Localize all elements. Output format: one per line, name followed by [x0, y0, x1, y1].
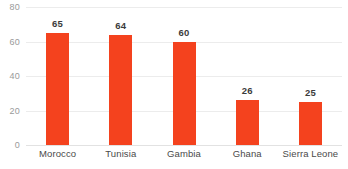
xlabel-morocco: Morocco — [26, 148, 89, 159]
bar-morocco — [46, 33, 69, 145]
ytick-label-20: 20 — [0, 106, 20, 116]
ytick-label-0: 0 — [0, 140, 20, 150]
bar-series: 65 64 60 26 25 — [26, 7, 342, 145]
bar-group-tunisia: 64 — [89, 7, 152, 145]
bar-group-sierra-leone: 25 — [279, 7, 342, 145]
xlabel-gambia: Gambia — [152, 148, 215, 159]
gridline-0-baseline — [26, 145, 342, 146]
xlabel-sierra-leone: Sierra Leone — [279, 148, 342, 159]
ytick-label-40: 40 — [0, 71, 20, 81]
bar-value-ghana: 26 — [242, 85, 253, 96]
x-axis-labels: Morocco Tunisia Gambia Ghana Sierra Leon… — [26, 148, 342, 166]
bar-value-morocco: 65 — [52, 18, 63, 29]
bar-tunisia — [109, 35, 132, 145]
bar-group-gambia: 60 — [152, 7, 215, 145]
ytick-label-80: 80 — [0, 2, 20, 12]
bar-gambia — [173, 42, 196, 146]
bar-value-tunisia: 64 — [115, 20, 126, 31]
xlabel-ghana: Ghana — [216, 148, 279, 159]
bar-group-morocco: 65 — [26, 7, 89, 145]
bar-chart: 65 64 60 26 25 80 60 40 20 — [0, 0, 348, 169]
bar-ghana — [236, 100, 259, 145]
xlabel-tunisia: Tunisia — [89, 148, 152, 159]
bar-group-ghana: 26 — [216, 7, 279, 145]
bar-value-gambia: 60 — [179, 27, 190, 38]
bar-sierra-leone — [299, 102, 322, 145]
ytick-label-60: 60 — [0, 37, 20, 47]
bar-value-sierra-leone: 25 — [305, 87, 316, 98]
plot-area: 65 64 60 26 25 80 60 40 20 — [26, 7, 342, 145]
